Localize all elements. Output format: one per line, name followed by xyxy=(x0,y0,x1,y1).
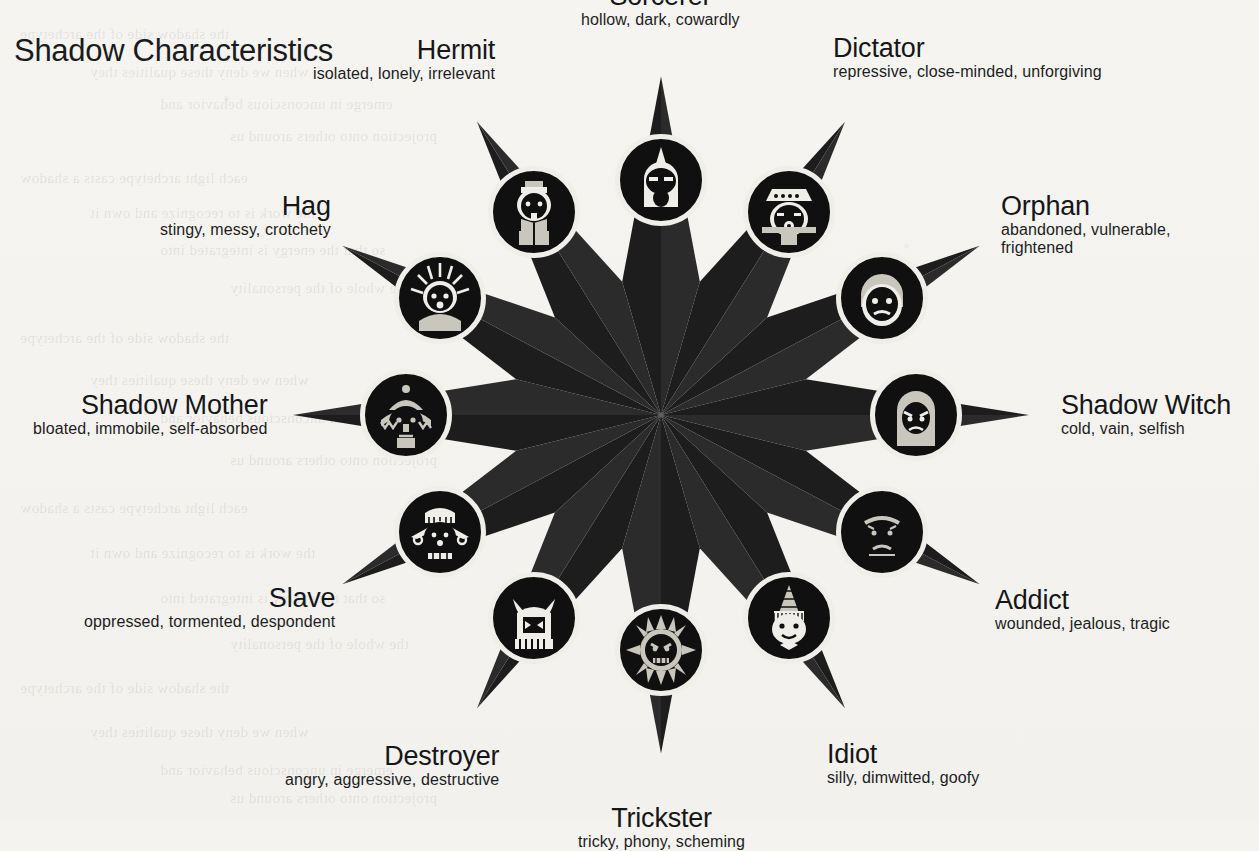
archetype-traits: cold, vain, selfish xyxy=(1061,420,1231,439)
archetype-label-idiot: Idiotsilly, dimwitted, goofy xyxy=(827,741,979,787)
archetype-name: Hag xyxy=(160,193,331,221)
archetype-name: Idiot xyxy=(827,741,979,769)
slave-shackled-face-icon xyxy=(394,486,486,578)
idiot-dunce-cap-icon xyxy=(743,572,835,664)
destroyer-horned-beast-icon xyxy=(488,572,580,664)
archetype-label-slave: Slaveoppressed, tormented, despondent xyxy=(84,585,335,631)
archetype-label-shadow-mother: Shadow Motherbloated, immobile, self-abs… xyxy=(33,392,267,438)
archetype-traits: oppressed, tormented, despondent xyxy=(84,613,335,632)
trickster-sun-mask-icon xyxy=(615,604,707,696)
archetype-name: Shadow Mother xyxy=(33,392,267,420)
archetype-name: Destroyer xyxy=(285,743,499,771)
ghost-text-line: the shadow side of the archetype xyxy=(20,680,229,697)
archetype-traits: silly, dimwitted, goofy xyxy=(827,769,979,788)
archetype-traits: wounded, jealous, tragic xyxy=(995,615,1170,634)
dictator-military-cap-icon xyxy=(743,166,835,258)
archetype-name: Dictator xyxy=(833,35,1102,63)
archetype-label-hermit: Hermitisolated, lonely, irrelevant xyxy=(313,37,495,83)
ghost-text-line: the shadow side of the archetype xyxy=(20,330,229,347)
archetype-traits: stingy, messy, crotchety xyxy=(160,221,331,240)
archetype-traits: angry, aggressive, destructive xyxy=(285,771,499,790)
archetype-name: Slave xyxy=(84,585,335,613)
archetype-name: Sorcerer xyxy=(581,0,740,11)
archetype-traits: isolated, lonely, irrelevant xyxy=(313,65,495,84)
archetype-traits: repressive, close-minded, unforgiving xyxy=(833,63,1102,82)
archetype-label-shadow-witch: Shadow Witchcold, vain, selfish xyxy=(1061,392,1231,438)
archetype-traits: hollow, dark, cowardly xyxy=(581,11,740,30)
archetype-name: Shadow Witch xyxy=(1061,392,1231,420)
archetype-label-hag: Hagstingy, messy, crotchety xyxy=(160,193,331,239)
hag-wild-hair-icon xyxy=(394,252,486,344)
archetype-label-orphan: Orphanabandoned, vulnerable, frightened xyxy=(1001,193,1191,258)
archetype-name: Trickster xyxy=(578,805,745,833)
archetype-traits: tricky, phony, scheming xyxy=(578,833,745,851)
archetype-name: Orphan xyxy=(1001,193,1191,221)
ghost-text-line: each light archetype casts a shadow xyxy=(20,500,248,517)
ghost-text-line: each light archetype casts a shadow xyxy=(20,170,248,187)
hermit-bearded-face-icon xyxy=(488,166,580,258)
archetype-label-sorcerer: Sorcererhollow, dark, cowardly xyxy=(581,0,740,29)
archetype-name: Addict xyxy=(995,587,1170,615)
archetype-label-addict: Addictwounded, jealous, tragic xyxy=(995,587,1170,633)
archetype-traits: abandoned, vulnerable, frightened xyxy=(1001,221,1191,259)
archetype-name: Hermit xyxy=(313,37,495,65)
archetype-label-destroyer: Destroyerangry, aggressive, destructive xyxy=(285,743,499,789)
shadow-archetype-star-diagram xyxy=(243,36,1079,796)
addict-drooping-face-icon xyxy=(836,486,928,578)
archetype-label-trickster: Trickstertricky, phony, scheming xyxy=(578,805,745,851)
archetype-traits: bloated, immobile, self-absorbed xyxy=(33,420,267,439)
shadow-witch-veiled-face-icon xyxy=(870,369,962,461)
sorcerer-hooded-face-icon xyxy=(615,134,707,226)
shadow-mother-bonnet-face-icon xyxy=(360,369,452,461)
orphan-sad-child-icon xyxy=(836,252,928,344)
archetype-label-dictator: Dictatorrepressive, close-minded, unforg… xyxy=(833,35,1102,81)
